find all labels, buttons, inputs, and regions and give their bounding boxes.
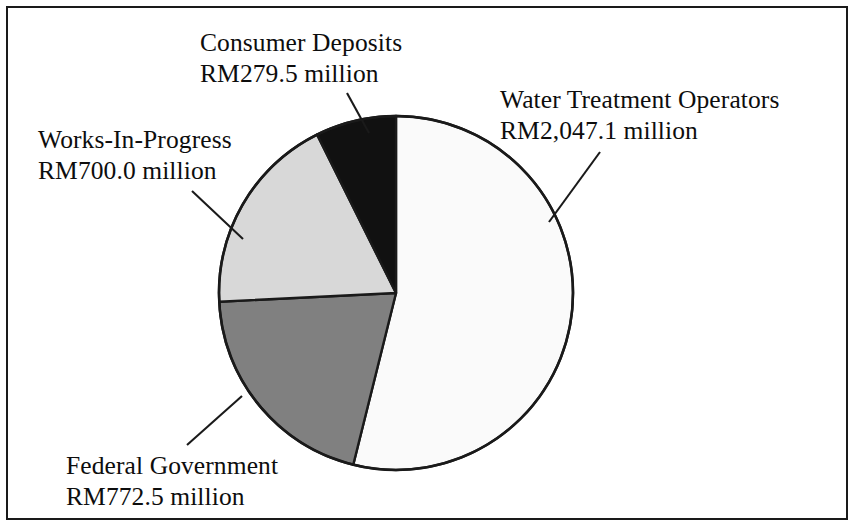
slice-label-water-treatment-operators-name: Water Treatment Operators bbox=[500, 84, 779, 115]
slice-label-federal-government-amount: RM772.5 million bbox=[66, 481, 278, 512]
leader-line-water-treatment-operators bbox=[549, 152, 600, 222]
pie-chart-figure: Consumer Deposits RM279.5 million Water … bbox=[0, 0, 857, 526]
slice-label-federal-government-name: Federal Government bbox=[66, 450, 278, 481]
slice-label-works-in-progress: Works-In-Progress RM700.0 million bbox=[38, 124, 232, 187]
slice-label-consumer-deposits: Consumer Deposits RM279.5 million bbox=[200, 27, 402, 90]
slice-label-federal-government: Federal Government RM772.5 million bbox=[66, 450, 278, 513]
slice-label-works-in-progress-amount: RM700.0 million bbox=[38, 155, 232, 186]
pie-chart-graphic bbox=[0, 0, 857, 526]
slice-label-water-treatment-operators: Water Treatment Operators RM2,047.1 mill… bbox=[500, 84, 779, 147]
slice-label-water-treatment-operators-amount: RM2,047.1 million bbox=[500, 115, 779, 146]
slice-label-consumer-deposits-name: Consumer Deposits bbox=[200, 27, 402, 58]
slice-label-consumer-deposits-amount: RM279.5 million bbox=[200, 58, 402, 89]
leader-line-works-in-progress bbox=[192, 191, 243, 239]
slice-label-works-in-progress-name: Works-In-Progress bbox=[38, 124, 232, 155]
leader-line-federal-government bbox=[187, 396, 242, 445]
